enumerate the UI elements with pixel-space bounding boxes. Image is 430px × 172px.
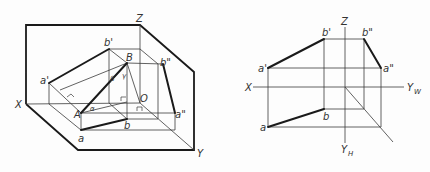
- gamma-ref-line: [127, 63, 140, 103]
- axonometric-diagram: X Z Y O b' a' B b" A a b a" α β γ: [14, 13, 204, 159]
- label-bprime: b': [322, 27, 331, 38]
- bprime-B-line: [109, 49, 127, 63]
- label-bprime: b': [104, 37, 113, 48]
- label-yh: Y: [341, 144, 348, 155]
- label-B: B: [126, 52, 133, 63]
- label-beta: β: [110, 75, 115, 83]
- label-adoubleprime: a": [383, 63, 394, 74]
- projection-diagrams: X Z Y O b' a' B b" A a b a" α β γ X Z Y …: [0, 0, 430, 172]
- line-bdoubleprime-adoubleprime: [364, 39, 381, 68]
- label-x: X: [14, 99, 23, 110]
- diagonal-45-line: [345, 87, 393, 142]
- label-y: Y: [197, 148, 204, 159]
- right-angle-mark: [121, 97, 126, 101]
- orthographic-diagram: X Z Y W Y H b' b" a' a" b a: [244, 16, 422, 158]
- label-aprime: a': [40, 75, 49, 86]
- line-aprime-bprime: [49, 49, 109, 83]
- label-origin: O: [140, 93, 148, 104]
- label-gamma: γ: [122, 72, 127, 80]
- label-b: b: [124, 120, 130, 131]
- label-z: Z: [340, 16, 349, 27]
- right-angle-mark: [137, 107, 142, 111]
- line-AB: [81, 63, 127, 113]
- y-axis: [140, 103, 194, 150]
- label-alpha: α: [90, 105, 95, 113]
- label-a: a: [78, 133, 84, 144]
- label-x: X: [244, 82, 253, 93]
- z-bdoubleprime-line: [140, 49, 158, 64]
- label-aprime: a': [258, 63, 267, 74]
- right-angle-mark: [67, 94, 74, 97]
- label-a: a: [260, 122, 266, 133]
- label-bdoubleprime: b": [160, 57, 171, 68]
- line-ab: [81, 119, 127, 130]
- line-ab: [268, 109, 324, 127]
- line-adoubleprime-bdoubleprime: [163, 64, 175, 113]
- label-z: Z: [135, 13, 144, 24]
- label-b: b: [323, 111, 329, 122]
- label-adoubleprime: a": [175, 109, 186, 120]
- label-yw: Y: [407, 82, 414, 93]
- beta-ref-line: [60, 63, 127, 90]
- label-A: A: [73, 109, 81, 120]
- label-yw-sub: W: [414, 88, 422, 96]
- label-yh-sub: H: [348, 150, 354, 158]
- diagram-canvas: X Z Y O b' a' B b" A a b a" α β γ X Z Y …: [0, 0, 430, 172]
- label-bdoubleprime: b": [362, 27, 373, 38]
- line-aprime-bprime: [268, 39, 324, 68]
